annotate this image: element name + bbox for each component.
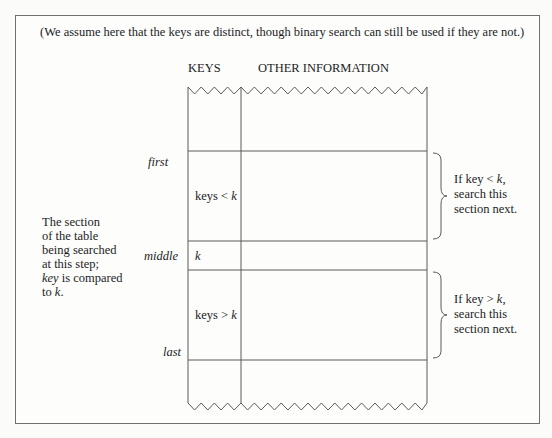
upper-section-brace bbox=[433, 272, 447, 358]
lower-section-brace bbox=[433, 153, 447, 239]
top-break-zigzag bbox=[188, 87, 427, 94]
first-pointer-label: first bbox=[148, 155, 168, 170]
upper-keys-cell: keys > k bbox=[195, 308, 237, 323]
lower-keys-cell: keys < k bbox=[195, 189, 237, 204]
middle-key-cell: k bbox=[195, 249, 201, 264]
bottom-break-zigzag bbox=[188, 403, 427, 410]
last-pointer-label: last bbox=[163, 345, 181, 360]
middle-pointer-label: middle bbox=[144, 249, 178, 264]
